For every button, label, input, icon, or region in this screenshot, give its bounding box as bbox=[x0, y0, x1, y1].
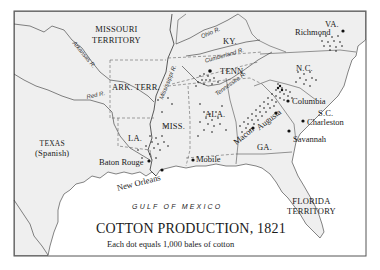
label-savannah: Savannah bbox=[293, 135, 326, 144]
label-charleston: Charleston bbox=[307, 118, 344, 127]
label-florida-line1: FLORIDA bbox=[287, 197, 336, 206]
city-marker-columbia bbox=[286, 99, 289, 102]
label-mobile: Mobile bbox=[196, 155, 221, 164]
label-miss: MISS. bbox=[162, 122, 185, 131]
map-title: COTTON PRODUCTION, 1821 bbox=[96, 222, 286, 236]
label-texas-line1: TEXAS bbox=[35, 140, 69, 148]
label-missouri-territory: MISSOURI TERRITORY bbox=[92, 25, 141, 44]
label-texas-line2: (Spanish) bbox=[35, 149, 69, 158]
city-marker-new-orleans bbox=[160, 168, 163, 171]
city-marker-charleston bbox=[301, 119, 304, 122]
label-la: LA. bbox=[128, 134, 142, 143]
label-florida-line2: TERRITORY bbox=[287, 207, 336, 216]
label-missouri-line2: TERRITORY bbox=[92, 36, 141, 45]
label-columbia: Columbia bbox=[292, 97, 326, 106]
city-marker-richmond bbox=[341, 29, 344, 32]
label-texas: TEXAS (Spanish) bbox=[35, 140, 69, 157]
label-ga: GA. bbox=[257, 143, 272, 152]
map-subtitle: Each dot equals 1,000 bales of cotton bbox=[107, 240, 234, 249]
label-ala: ALA. bbox=[205, 110, 225, 119]
label-ark-terr: ARK. TERR. bbox=[112, 83, 160, 92]
label-missouri-line1: MISSOURI bbox=[92, 25, 141, 34]
city-marker-baton-rouge bbox=[147, 159, 150, 162]
city-marker-mobile bbox=[191, 158, 194, 161]
label-richmond: Richmond bbox=[295, 28, 330, 37]
label-baton-rouge: Baton Rouge bbox=[99, 158, 144, 167]
city-marker-savannah bbox=[287, 129, 290, 132]
label-gulf-of-mexico: GULF OF MEXICO bbox=[132, 203, 222, 210]
label-florida-territory: FLORIDA TERRITORY bbox=[287, 197, 336, 215]
label-nc: N.C. bbox=[296, 64, 313, 73]
city-marker-nashville bbox=[208, 69, 212, 73]
label-ky: KY. bbox=[223, 37, 237, 46]
